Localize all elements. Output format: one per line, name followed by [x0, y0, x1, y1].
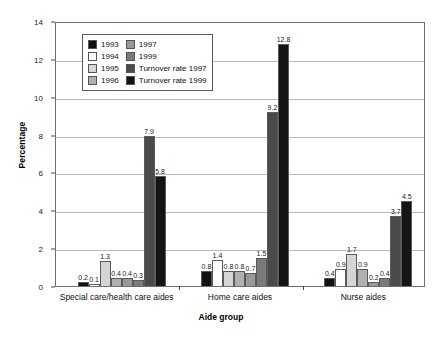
legend-column: 19971999Turnover rate 1997Turnover rate …	[126, 39, 207, 86]
legend-column: 1993199419951996	[88, 39, 119, 86]
legend-swatch-icon	[88, 40, 97, 49]
bar[interactable]	[89, 284, 100, 286]
legend-item[interactable]: 1995	[88, 63, 119, 74]
legend-label: 1995	[101, 64, 119, 73]
y-tick-label: 0	[13, 283, 43, 292]
bar[interactable]	[234, 271, 245, 286]
legend-item[interactable]: 1994	[88, 51, 119, 62]
y-tick-label: 2	[13, 245, 43, 254]
bar-value-label: 5.8	[143, 168, 177, 175]
bar[interactable]	[201, 271, 212, 286]
legend-swatch-icon	[88, 76, 97, 85]
x-axis-group-label: Home care aides	[178, 292, 301, 302]
y-tick-label: 14	[13, 18, 43, 27]
legend-swatch-icon	[88, 52, 97, 61]
bar[interactable]	[346, 254, 357, 286]
bar-value-label: 4.5	[390, 193, 424, 200]
bar[interactable]	[401, 201, 412, 286]
y-tick-label: 4	[13, 207, 43, 216]
x-axis-group-label: Nurse aides	[302, 292, 425, 302]
bar-chart: Percentage 02468101214 0.20.11.30.40.40.…	[0, 0, 442, 340]
legend-item[interactable]: 1999	[126, 51, 207, 62]
bar[interactable]	[223, 271, 234, 286]
bar[interactable]	[379, 278, 390, 286]
legend-label: 1993	[101, 40, 119, 49]
bar-group: 0.40.91.70.90.20.43.74.5	[303, 23, 426, 286]
y-tick-label: 6	[13, 169, 43, 178]
bar[interactable]	[335, 269, 346, 286]
bar[interactable]	[267, 112, 278, 286]
bar[interactable]	[144, 136, 155, 286]
legend-label: 1994	[101, 52, 119, 61]
y-tick-label: 12	[13, 55, 43, 64]
bar[interactable]	[122, 278, 133, 286]
bar[interactable]	[133, 280, 144, 286]
bar[interactable]	[390, 216, 401, 286]
y-tick-label: 10	[13, 93, 43, 102]
y-tick-label: 8	[13, 131, 43, 140]
legend-item[interactable]: Turnover rate 1999	[126, 75, 207, 86]
legend-label: 1999	[139, 52, 157, 61]
bar[interactable]	[368, 282, 379, 286]
y-axis: 02468101214	[0, 0, 55, 340]
legend-label: Turnover rate 1997	[139, 64, 207, 73]
x-axis-title: Aide group	[0, 312, 442, 322]
legend-swatch-icon	[88, 64, 97, 73]
bar[interactable]	[111, 278, 122, 286]
x-axis-separator-tick	[303, 286, 304, 290]
x-axis-group-label: Special care/health care aides	[55, 292, 178, 302]
legend-label: 1997	[139, 40, 157, 49]
legend: 199319941995199619971999Turnover rate 19…	[82, 34, 213, 91]
bar[interactable]	[324, 278, 335, 286]
legend-item[interactable]: 1996	[88, 75, 119, 86]
bar-value-label: 12.8	[266, 36, 300, 43]
legend-swatch-icon	[126, 64, 135, 73]
x-axis-separator-tick	[179, 286, 180, 290]
legend-swatch-icon	[126, 76, 135, 85]
legend-label: 1996	[101, 76, 119, 85]
legend-item[interactable]: Turnover rate 1997	[126, 63, 207, 74]
legend-swatch-icon	[126, 40, 135, 49]
bar[interactable]	[256, 258, 267, 286]
bar[interactable]	[245, 273, 256, 286]
bar[interactable]	[155, 176, 166, 286]
legend-label: Turnover rate 1999	[139, 76, 207, 85]
legend-item[interactable]: 1993	[88, 39, 119, 50]
legend-item[interactable]: 1997	[126, 39, 207, 50]
legend-swatch-icon	[126, 52, 135, 61]
bar[interactable]	[278, 44, 289, 286]
